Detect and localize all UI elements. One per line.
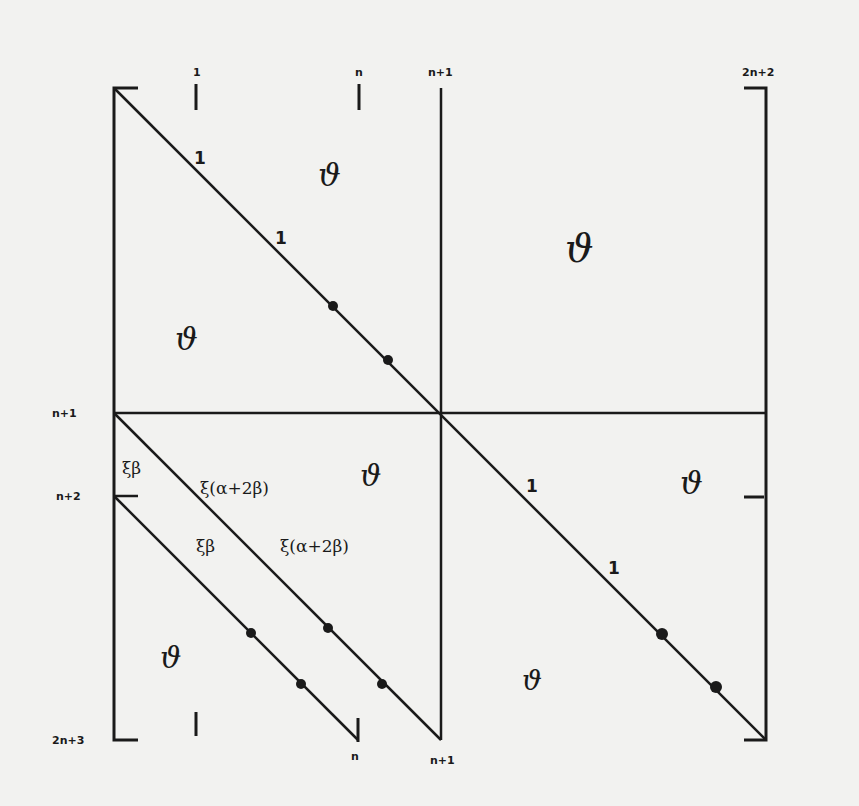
coef-xi-alpha-beta-1: ξ(α+2β) (200, 478, 269, 498)
matrix-diagram: 1 n n+1 2n+2 n+1 n+2 2n+3 n n+1 ϑ ϑ 1 1 … (0, 0, 859, 806)
zero-block-top-left-upper: ϑ (318, 156, 341, 194)
diag-one-4: 1 (608, 558, 620, 578)
bottom-label-n: n (351, 750, 359, 763)
row-label-n2: n+2 (56, 490, 81, 503)
zero-block-top-left-lower: ϑ (175, 320, 198, 358)
row-label-2n3: 2n+3 (52, 734, 84, 747)
coef-xi-beta-1: ξβ (122, 458, 141, 478)
col-label-1: 1 (193, 66, 201, 79)
col-label-2n2: 2n+2 (742, 66, 774, 79)
zero-block-top-right: ϑ (565, 225, 594, 271)
zero-block-bottom-right-lower: ϑ (522, 664, 542, 697)
row-label-n1: n+1 (52, 407, 77, 420)
bottom-label-n1: n+1 (430, 754, 455, 767)
col-label-n1: n+1 (428, 66, 453, 79)
col-label-n: n (355, 66, 363, 79)
matrix-svg: 1 n n+1 2n+2 n+1 n+2 2n+3 n n+1 ϑ ϑ 1 1 … (0, 0, 859, 806)
diag-one-3: 1 (526, 476, 538, 496)
zero-block-bottom-left-center: ϑ (360, 458, 381, 493)
diag-one-2: 1 (275, 228, 287, 248)
diag-one-1: 1 (194, 148, 206, 168)
coef-xi-alpha-beta-2: ξ(α+2β) (280, 536, 349, 556)
coef-xi-beta-2: ξβ (196, 536, 215, 556)
zero-block-bottom-right-upper: ϑ (680, 464, 703, 502)
diagonal-dots (246, 301, 722, 693)
zero-block-bottom-left-lower: ϑ (160, 640, 181, 675)
